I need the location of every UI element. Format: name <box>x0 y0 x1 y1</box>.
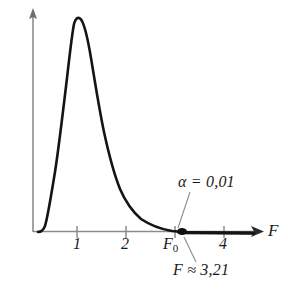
x-tick-label-1: 1 <box>73 236 81 252</box>
chart-background <box>0 0 288 294</box>
x-tick-label-2: 2 <box>121 236 129 252</box>
critical-value-annotation-label: F ≈ 3,21 <box>173 262 229 278</box>
critical-point-letter: F <box>163 235 173 252</box>
critical-point-subscript: 0 <box>173 242 179 254</box>
x-tick-label-4: 4 <box>219 236 227 252</box>
rejection-region-tail <box>182 233 253 234</box>
x-axis-label: F <box>268 222 278 239</box>
f-distribution-chart <box>0 0 288 294</box>
alpha-annotation-label: α = 0,01 <box>178 174 235 190</box>
critical-point-marker <box>177 228 187 235</box>
critical-point-label: F0 <box>163 236 178 252</box>
